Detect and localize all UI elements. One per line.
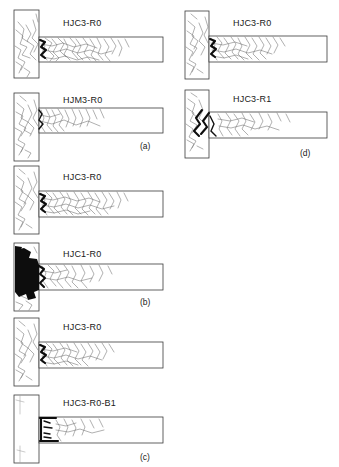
sub-figure-label-c: (c) (140, 452, 150, 462)
specimen-drawing-d2 (0, 0, 339, 175)
sub-figure-label-d: (d) (300, 148, 310, 158)
crack-pattern-figure: HJC3-R0 (0, 0, 339, 467)
